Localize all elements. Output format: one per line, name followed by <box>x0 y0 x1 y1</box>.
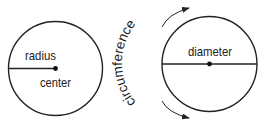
radius-circle-figure: radius center <box>9 22 103 116</box>
center-label: center <box>40 75 71 90</box>
circle-parts-diagram: radius center diameter circumference <box>0 0 265 129</box>
diameter-label: diameter <box>188 44 232 59</box>
circumference-label: circumference <box>110 17 139 110</box>
radius-label: radius <box>25 48 56 63</box>
circumference-label-path: circumference <box>110 17 139 110</box>
center-point-right <box>207 62 212 67</box>
diameter-circle-figure: diameter circumference <box>110 8 257 118</box>
center-point <box>53 66 58 71</box>
circumference-arrow-bottom <box>162 101 189 118</box>
